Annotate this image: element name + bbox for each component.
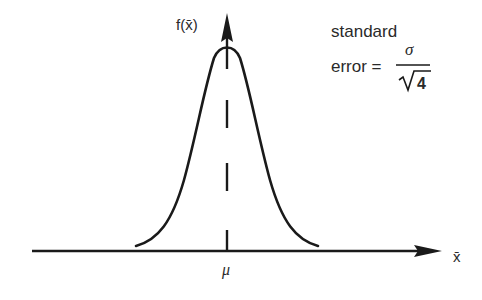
- normal-distribution-curve: [136, 48, 318, 247]
- square-root-icon: [399, 71, 431, 90]
- denominator-value: 4: [417, 75, 426, 92]
- y-axis-label: f(x̄): [176, 16, 198, 33]
- standard-error-annotation: standard error = σ 4: [331, 22, 431, 92]
- x-axis-label: x̄: [453, 248, 461, 265]
- sigma-numerator: σ: [405, 40, 414, 59]
- x-axis-arrow-icon: [414, 245, 442, 257]
- sampling-distribution-diagram: f(x̄) μ x̄ standard error = σ 4: [0, 0, 482, 300]
- mean-label: μ: [221, 261, 230, 279]
- annotation-line1: standard: [331, 22, 397, 41]
- annotation-line2-prefix: error =: [331, 57, 382, 76]
